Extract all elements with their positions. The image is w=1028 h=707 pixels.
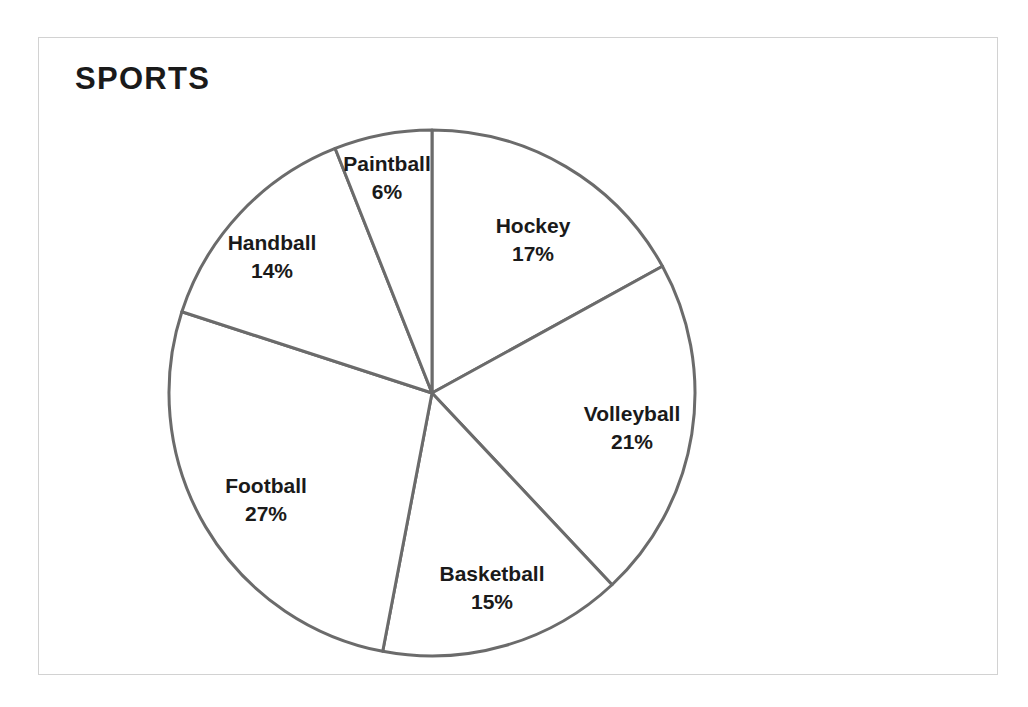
- slice-label-value: 14%: [228, 257, 317, 285]
- slice-label-value: 27%: [225, 500, 307, 528]
- slice-label-paintball: Paintball6%: [343, 150, 431, 205]
- slice-label-value: 21%: [584, 428, 680, 456]
- pie-slice-group: [169, 130, 695, 656]
- slice-label-name: Hockey: [496, 212, 571, 240]
- slice-label-value: 15%: [439, 588, 544, 616]
- slice-label-name: Volleyball: [584, 400, 680, 428]
- slice-label-name: Paintball: [343, 150, 431, 178]
- slice-label-basketball: Basketball15%: [439, 560, 544, 615]
- slice-label-value: 6%: [343, 178, 431, 206]
- slice-label-value: 17%: [496, 240, 571, 268]
- slice-label-football: Football27%: [225, 472, 307, 527]
- slice-label-name: Basketball: [439, 560, 544, 588]
- slice-label-name: Football: [225, 472, 307, 500]
- slice-label-volleyball: Volleyball21%: [584, 400, 680, 455]
- slice-label-hockey: Hockey17%: [496, 212, 571, 267]
- slice-label-name: Handball: [228, 229, 317, 257]
- slice-label-handball: Handball14%: [228, 229, 317, 284]
